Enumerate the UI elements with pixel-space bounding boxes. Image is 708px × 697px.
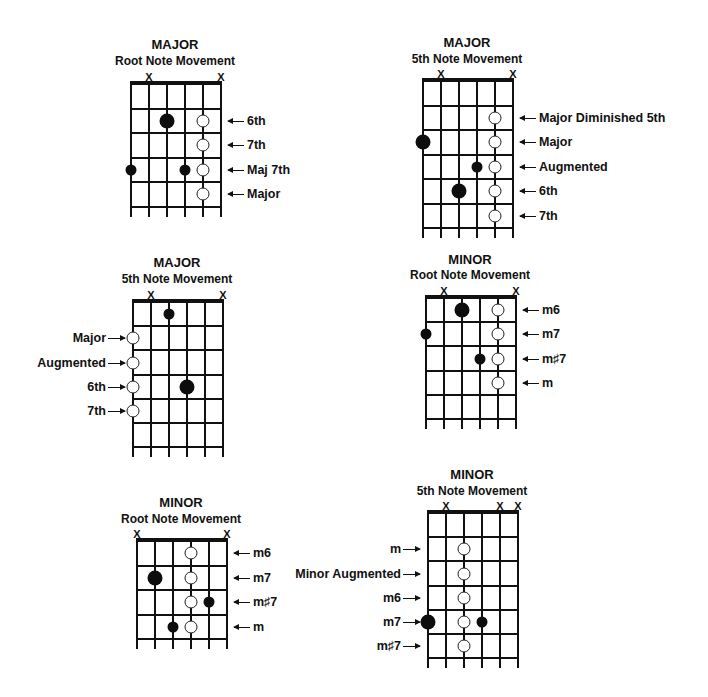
finger-dot xyxy=(472,161,483,172)
fret-line xyxy=(132,398,224,400)
guitar-string xyxy=(172,540,174,649)
diagram-title: MINOR xyxy=(450,468,493,482)
fretboard-nut xyxy=(130,81,222,85)
arrow-icon xyxy=(108,411,125,412)
arrow-icon xyxy=(403,574,420,575)
interval-label: Augmented xyxy=(539,160,608,174)
fretboard-nut xyxy=(425,295,517,299)
fret-line xyxy=(422,227,514,229)
open-note-circle xyxy=(489,209,502,222)
fret-line xyxy=(130,206,222,208)
arrow-icon xyxy=(108,387,125,388)
open-note-circle xyxy=(492,376,505,389)
arrow-icon xyxy=(228,170,244,171)
finger-dot xyxy=(416,135,431,150)
fret-line xyxy=(425,345,517,347)
fretboard-nut xyxy=(132,299,224,303)
fret-line xyxy=(427,657,519,659)
open-note-circle xyxy=(197,163,210,176)
arrow-icon xyxy=(228,121,244,122)
fret-line xyxy=(422,129,514,131)
interval-label: 7th xyxy=(87,404,106,418)
open-note-circle xyxy=(197,188,210,201)
open-note-circle xyxy=(185,620,198,633)
guitar-string xyxy=(136,540,138,649)
fret-line xyxy=(422,154,514,156)
finger-dot xyxy=(148,570,163,585)
interval-label: Major xyxy=(247,187,280,201)
guitar-string xyxy=(222,301,224,457)
interval-label: Major xyxy=(73,331,106,345)
fret-line xyxy=(136,638,228,640)
interval-label: 6th xyxy=(87,380,106,394)
open-note-circle xyxy=(185,596,198,609)
guitar-string xyxy=(166,83,168,217)
guitar-string xyxy=(440,80,442,238)
finger-dot xyxy=(180,164,191,175)
arrow-icon xyxy=(520,167,536,168)
finger-dot xyxy=(452,184,467,199)
diagram-title: MAJOR xyxy=(444,36,491,50)
fret-line xyxy=(136,614,228,616)
arrow-icon xyxy=(234,627,250,628)
interval-label: m6 xyxy=(542,303,560,317)
arrow-icon xyxy=(228,145,244,146)
open-note-circle xyxy=(458,543,471,556)
diagram-subtitle: 5th Note Movement xyxy=(417,484,528,498)
arrow-icon xyxy=(403,598,420,599)
interval-label: m xyxy=(253,620,264,634)
open-note-circle xyxy=(458,615,471,628)
open-note-circle xyxy=(458,567,471,580)
open-note-circle xyxy=(127,380,140,393)
guitar-string xyxy=(458,80,460,238)
open-note-circle xyxy=(458,591,471,604)
guitar-string xyxy=(132,301,134,457)
guitar-string xyxy=(226,540,228,649)
fret-line xyxy=(427,609,519,611)
guitar-string xyxy=(154,540,156,649)
fret-line xyxy=(427,536,519,538)
interval-label: m6 xyxy=(253,546,271,560)
arrow-icon xyxy=(523,310,539,311)
open-note-circle xyxy=(492,328,505,341)
fret-line xyxy=(425,394,517,396)
fret-line xyxy=(130,181,222,183)
finger-dot xyxy=(477,616,488,627)
arrow-icon xyxy=(234,578,250,579)
arrow-icon xyxy=(234,553,250,554)
open-note-circle xyxy=(127,332,140,345)
interval-label: Minor Augmented xyxy=(295,567,401,581)
interval-label: 7th xyxy=(539,209,558,223)
fret-line xyxy=(130,108,222,110)
fret-line xyxy=(425,321,517,323)
interval-label: m xyxy=(390,542,401,556)
interval-label: m♯7 xyxy=(377,639,401,653)
finger-dot xyxy=(160,113,175,128)
finger-dot xyxy=(204,597,215,608)
guitar-string xyxy=(425,297,427,429)
guitar-string xyxy=(443,297,445,429)
finger-dot xyxy=(475,353,486,364)
open-note-circle xyxy=(127,404,140,417)
open-note-circle xyxy=(489,111,502,124)
diagram-title: MAJOR xyxy=(154,256,201,270)
fret-line xyxy=(136,565,228,567)
guitar-string xyxy=(445,512,447,668)
arrow-icon xyxy=(520,191,536,192)
fret-line xyxy=(136,589,228,591)
diagram-title: MAJOR xyxy=(152,38,199,52)
fretboard-nut xyxy=(427,510,519,514)
open-note-circle xyxy=(185,571,198,584)
interval-label: m♯7 xyxy=(542,352,566,366)
open-note-circle xyxy=(489,136,502,149)
arrow-icon xyxy=(403,646,420,647)
interval-label: Maj 7th xyxy=(247,163,290,177)
guitar-string xyxy=(476,80,478,238)
interval-label: m7 xyxy=(253,571,271,585)
guitar-string xyxy=(422,80,424,238)
finger-dot xyxy=(168,621,179,632)
fret-line xyxy=(425,370,517,372)
interval-label: 6th xyxy=(247,114,266,128)
fret-line xyxy=(132,349,224,351)
fret-line xyxy=(132,446,224,448)
